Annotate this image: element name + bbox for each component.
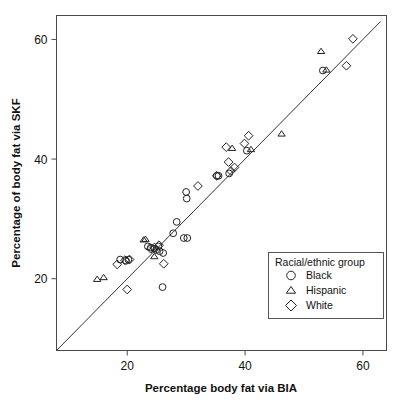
chart-canvas: 204060 204060 Racial/ethnic group BlackH… <box>0 0 405 403</box>
y-tick-label: 40 <box>34 153 48 167</box>
y-axis-label: Percentage of body fat via SKF <box>10 98 22 267</box>
y-tick-label: 60 <box>34 33 48 47</box>
x-tick-label: 60 <box>356 359 370 373</box>
x-tick-label: 20 <box>121 359 135 373</box>
x-tick-label: 40 <box>238 359 252 373</box>
legend-title: Racial/ethnic group <box>275 256 365 268</box>
y-tick-label: 20 <box>34 272 48 286</box>
legend: Racial/ethnic group BlackHispanicWhite <box>269 253 384 319</box>
legend-entry-label: White <box>306 299 333 311</box>
legend-entry-label: Hispanic <box>306 284 346 296</box>
legend-entry-label: Black <box>306 269 332 281</box>
chart-background <box>0 0 405 403</box>
scatter-plot-figure: 204060 204060 Racial/ethnic group BlackH… <box>0 0 405 403</box>
x-axis-label: Percentage body fat via BIA <box>145 382 297 394</box>
